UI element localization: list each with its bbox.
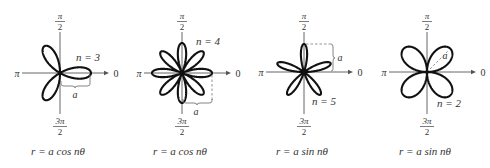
label-3pi-over-2-denominator: 2 bbox=[180, 127, 185, 137]
origin-dot bbox=[302, 70, 306, 74]
label-zero: 0 bbox=[481, 67, 486, 78]
label-pi: π bbox=[14, 68, 20, 79]
n-label: n = 3 bbox=[76, 51, 100, 63]
plot-rose-sin-5: π23π2π0n = 5ar = a sin nθ bbox=[258, 11, 362, 157]
plot-rose-cos-4: π23π2π0n = 4ar = a cos nθ bbox=[136, 11, 240, 157]
length-label-a: a bbox=[338, 52, 343, 63]
label-3pi-over-2-numerator: 3π bbox=[298, 116, 309, 126]
origin-dot bbox=[58, 71, 62, 75]
length-label-a: a bbox=[194, 106, 199, 117]
label-3pi-over-2-denominator: 2 bbox=[425, 127, 430, 137]
plot-rose-cos-3: π23π2π0n = 3ar = a cos nθ bbox=[14, 11, 118, 157]
n-label: n = 2 bbox=[437, 97, 461, 109]
label-pi: π bbox=[258, 67, 264, 78]
n-label: n = 4 bbox=[196, 35, 220, 47]
label-3pi-over-2-numerator: 3π bbox=[54, 116, 65, 126]
label-3pi-over-2-denominator: 2 bbox=[58, 127, 63, 137]
arrowhead-icon bbox=[104, 71, 109, 75]
label-pi-over-2-denominator: 2 bbox=[425, 22, 430, 32]
arrowhead-icon bbox=[226, 71, 231, 75]
label-pi-over-2-numerator: π bbox=[180, 11, 185, 21]
label-zero: 0 bbox=[236, 68, 241, 79]
arrowhead-icon bbox=[348, 70, 353, 74]
equation-caption: r = a cos nθ bbox=[31, 145, 85, 157]
label-pi-over-2-numerator: π bbox=[425, 11, 430, 21]
rose-curves-figure: π23π2π0n = 3ar = a cos nθπ23π2π0n = 4ar … bbox=[0, 0, 490, 168]
label-3pi-over-2-numerator: 3π bbox=[176, 116, 187, 126]
label-3pi-over-2-denominator: 2 bbox=[302, 127, 307, 137]
label-pi-over-2-denominator: 2 bbox=[302, 22, 307, 32]
label-pi: π bbox=[381, 67, 387, 78]
length-brace bbox=[183, 99, 212, 105]
label-zero: 0 bbox=[358, 67, 363, 78]
origin-dot bbox=[425, 70, 429, 74]
equation-caption: r = a sin nθ bbox=[276, 145, 329, 157]
label-zero: 0 bbox=[114, 68, 119, 79]
label-pi-over-2-numerator: π bbox=[58, 11, 63, 21]
label-pi-over-2-denominator: 2 bbox=[180, 22, 185, 32]
length-label-a: a bbox=[73, 89, 78, 100]
plot-rose-sin-2: π23π2π0n = 2ar = a sin nθ bbox=[381, 11, 485, 157]
label-3pi-over-2-numerator: 3π bbox=[421, 116, 432, 126]
arrowhead-icon bbox=[471, 70, 476, 74]
length-label-a: a bbox=[443, 50, 448, 61]
n-label: n = 5 bbox=[312, 95, 336, 107]
label-pi: π bbox=[136, 68, 142, 79]
equation-caption: r = a sin nθ bbox=[399, 145, 452, 157]
equation-caption: r = a cos nθ bbox=[153, 145, 207, 157]
label-pi-over-2-numerator: π bbox=[302, 11, 307, 21]
origin-dot bbox=[180, 71, 184, 75]
length-brace bbox=[331, 44, 335, 71]
label-pi-over-2-denominator: 2 bbox=[58, 22, 63, 32]
